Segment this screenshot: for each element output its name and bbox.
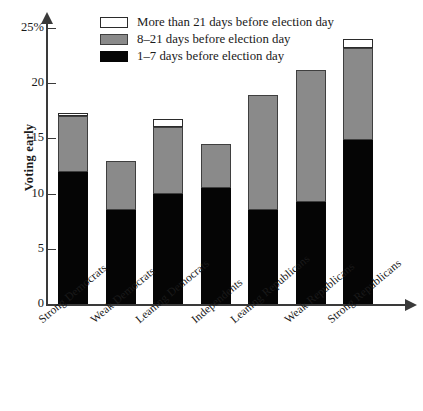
bar-segment-8-21-days (201, 144, 231, 188)
y-tick-label: 10 (0, 187, 44, 199)
gray-swatch-icon (100, 34, 128, 45)
legend-item: 1–7 days before election day (100, 48, 334, 65)
bar-segment-8-21-days (296, 70, 326, 202)
legend-item-label: More than 21 days before election day (137, 14, 334, 31)
y-tick-label: 25% (0, 21, 44, 33)
chart-container: Voting early 0510152025% Strong Democrat… (0, 0, 423, 411)
black-swatch-icon (100, 51, 128, 62)
legend-item-label: 1–7 days before election day (137, 48, 284, 65)
bar-leaning-republicans (248, 95, 278, 304)
chart-legend: More than 21 days before election day8–2… (100, 14, 334, 65)
y-tick-label: 0 (0, 297, 44, 309)
legend-item-label: 8–21 days before election day (137, 31, 291, 48)
bar-independents (201, 144, 231, 304)
x-axis-arrowhead (405, 299, 417, 311)
bar-segment-8-21-days (343, 48, 373, 140)
bar-segment-more-than-21-days (153, 119, 183, 128)
bar-segment-8-21-days (248, 95, 278, 210)
y-tick-label: 20 (0, 76, 44, 88)
white-swatch-icon (100, 17, 128, 28)
bar-segment-more-than-21-days (343, 39, 373, 48)
bar-segment-8-21-days (153, 127, 183, 193)
bar-segment-8-21-days (106, 161, 136, 211)
bar-segment-more-than-21-days (58, 113, 88, 116)
y-tick-label: 5 (0, 242, 44, 254)
legend-item: 8–21 days before election day (100, 31, 334, 48)
bar-segment-8-21-days (58, 116, 88, 171)
legend-item: More than 21 days before election day (100, 14, 334, 31)
y-tick-label: 15 (0, 131, 44, 143)
